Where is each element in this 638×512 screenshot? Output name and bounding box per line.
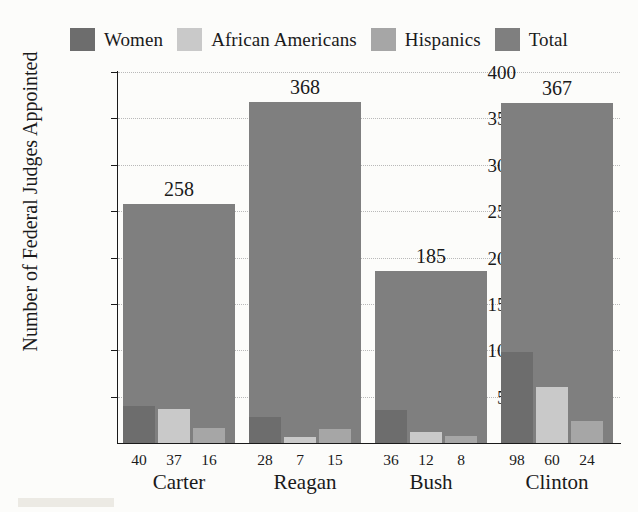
scan-artifact [18, 498, 114, 507]
bar-hispanics-carter [193, 428, 225, 443]
bar-african-americans-reagan [284, 437, 316, 443]
sub-value-label-women: 40 [123, 452, 155, 468]
bar-total-reagan [249, 102, 361, 443]
y-tick-mark [111, 350, 118, 351]
x-axis-line [117, 443, 621, 444]
total-value-label-clinton: 367 [501, 78, 613, 98]
bar-hispanics-reagan [319, 429, 351, 443]
gridline [118, 72, 620, 73]
y-axis-title: Number of Federal Judges Appointed [19, 12, 42, 392]
sub-value-label-women: 98 [501, 452, 533, 468]
legend-item-women: Women [70, 28, 163, 51]
sub-value-label-women: 28 [249, 452, 281, 468]
y-tick-mark [111, 304, 118, 305]
sub-value-label-women: 36 [375, 452, 407, 468]
bar-women-bush [375, 410, 407, 443]
legend-item-hispanics: Hispanics [371, 28, 481, 51]
sub-value-label-hispanics: 8 [445, 452, 477, 468]
category-label-carter: Carter [123, 472, 235, 493]
bar-african-americans-bush [410, 432, 442, 443]
sub-value-labels-clinton: 986024 [501, 452, 603, 468]
bar-hispanics-bush [445, 436, 477, 443]
sub-value-label-african-americans: 12 [410, 452, 442, 468]
bar-african-americans-clinton [536, 387, 568, 443]
legend-label-total: Total [529, 30, 568, 49]
legend-label-african-americans: African Americans [211, 30, 357, 49]
legend-item-african-americans: African Americans [177, 28, 357, 51]
legend-swatch-african-americans-icon [177, 28, 202, 51]
bar-women-clinton [501, 352, 533, 443]
total-value-label-carter: 258 [123, 179, 235, 199]
sub-value-label-african-americans: 7 [284, 452, 316, 468]
y-tick-mark [111, 118, 118, 119]
plot-area: 258368185367 [118, 72, 620, 443]
total-value-label-bush: 185 [375, 246, 487, 266]
y-tick-mark [111, 397, 118, 398]
plot-inner: 258368185367 [118, 72, 620, 443]
bar-women-carter [123, 406, 155, 443]
chart-legend: Women African Americans Hispanics Total [0, 24, 638, 54]
figure-federal-judges-appointed: Women African Americans Hispanics Total … [0, 0, 638, 512]
sub-value-labels-bush: 36128 [375, 452, 477, 468]
sub-value-label-hispanics: 16 [193, 452, 225, 468]
legend-item-total: Total [495, 28, 568, 51]
legend-label-hispanics: Hispanics [405, 30, 481, 49]
legend-swatch-women-icon [70, 28, 95, 51]
legend-label-women: Women [104, 30, 163, 49]
category-label-reagan: Reagan [249, 472, 361, 493]
sub-value-labels-reagan: 28715 [249, 452, 351, 468]
bar-hispanics-clinton [571, 421, 603, 443]
y-tick-mark [111, 72, 118, 73]
y-tick-mark [111, 165, 118, 166]
y-tick-mark [111, 211, 118, 212]
bar-women-reagan [249, 417, 281, 443]
sub-value-label-african-americans: 37 [158, 452, 190, 468]
sub-value-labels-carter: 403716 [123, 452, 225, 468]
sub-value-label-african-americans: 60 [536, 452, 568, 468]
y-tick-mark [111, 258, 118, 259]
category-label-bush: Bush [375, 472, 487, 493]
legend-swatch-total-icon [495, 28, 520, 51]
category-label-clinton: Clinton [501, 472, 613, 493]
legend-swatch-hispanics-icon [371, 28, 396, 51]
sub-value-label-hispanics: 15 [319, 452, 351, 468]
total-value-label-reagan: 368 [249, 77, 361, 97]
sub-value-label-hispanics: 24 [571, 452, 603, 468]
bar-african-americans-carter [158, 409, 190, 443]
